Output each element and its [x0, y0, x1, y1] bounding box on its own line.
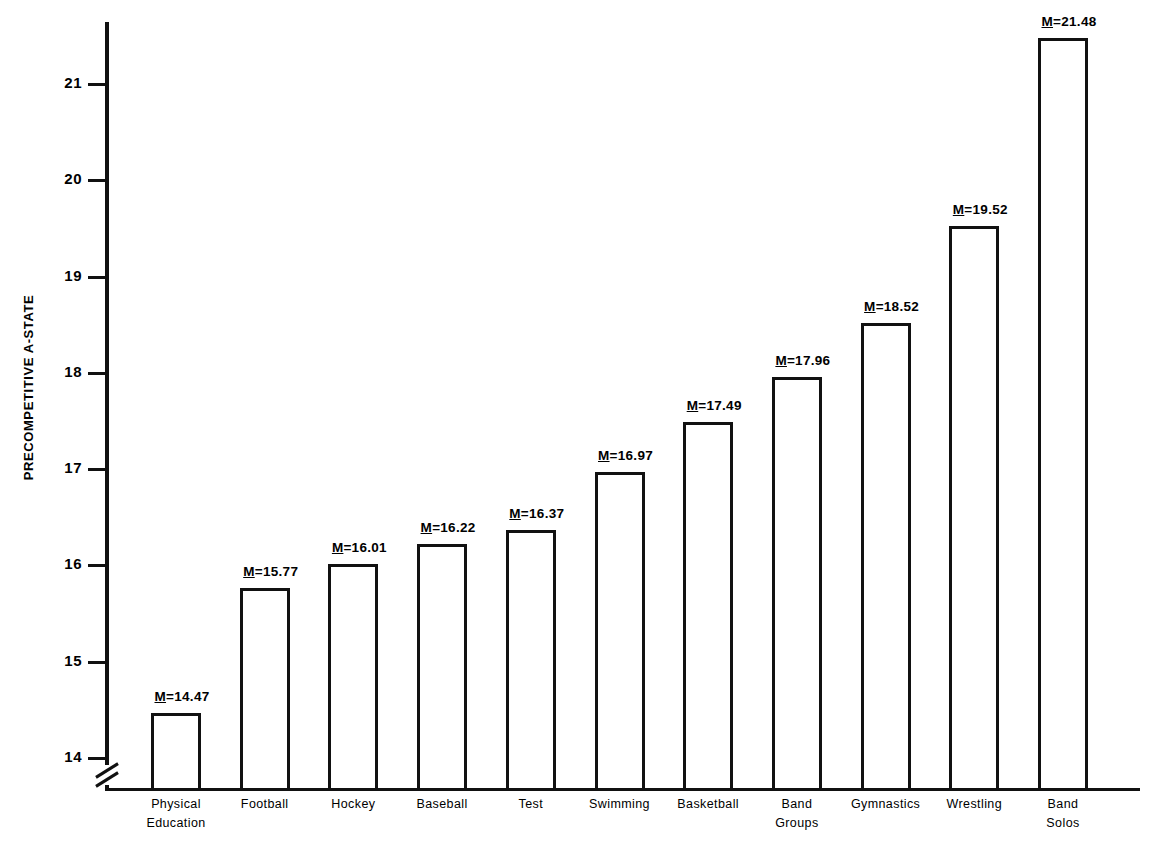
- bar: [240, 588, 290, 788]
- bar: [949, 226, 999, 788]
- bar: [506, 530, 556, 788]
- y-axis-tick: [88, 179, 106, 182]
- bar: [1038, 38, 1088, 788]
- y-axis-tick: [88, 372, 106, 375]
- bar: [595, 472, 645, 788]
- bar-value-label: M=16.22: [421, 520, 476, 535]
- y-axis-tick-label: 15: [64, 652, 82, 669]
- bar-value-label: M=18.52: [864, 299, 919, 314]
- x-axis-line: [105, 788, 1140, 791]
- y-axis-title: PRECOMPETITIVE A-STATE: [21, 278, 36, 498]
- y-axis-tick: [88, 757, 106, 760]
- y-axis-tick: [88, 468, 106, 471]
- bar: [772, 377, 822, 788]
- bar-value-label: M=17.96: [775, 353, 830, 368]
- y-axis-tick-label: 20: [64, 170, 82, 187]
- y-axis-tick-label: 21: [64, 74, 82, 91]
- bar-value-label: M=19.52: [953, 202, 1008, 217]
- bar: [861, 323, 911, 788]
- y-axis-tick: [88, 564, 106, 567]
- bar-value-label: M=21.48: [1041, 14, 1096, 29]
- y-axis-tick-label: 19: [64, 267, 82, 284]
- y-axis-tick: [88, 276, 106, 279]
- y-axis-tick: [88, 661, 106, 664]
- y-axis-tick-label: 16: [64, 555, 82, 572]
- y-axis-tick-label: 17: [64, 459, 82, 476]
- y-axis-line: [105, 22, 109, 790]
- bar: [328, 564, 378, 788]
- x-axis-category-label: Band Solos: [998, 795, 1128, 833]
- bar-value-label: M=16.97: [598, 448, 653, 463]
- bar-value-label: M=16.37: [509, 506, 564, 521]
- bar-value-label: M=15.77: [243, 564, 298, 579]
- y-axis-tick: [88, 83, 106, 86]
- bar-value-label: M=14.47: [154, 689, 209, 704]
- bar-value-label: M=16.01: [332, 540, 387, 555]
- bar: [417, 544, 467, 788]
- bar: [683, 422, 733, 788]
- y-axis-tick-label: 14: [64, 748, 82, 765]
- axis-break-icon: [92, 762, 122, 788]
- bar-chart: PRECOMPETITIVE A-STATE 1415161718192021 …: [0, 0, 1150, 855]
- y-axis-tick-label: 18: [64, 363, 82, 380]
- bar-value-label: M=17.49: [687, 398, 742, 413]
- bar: [151, 713, 201, 788]
